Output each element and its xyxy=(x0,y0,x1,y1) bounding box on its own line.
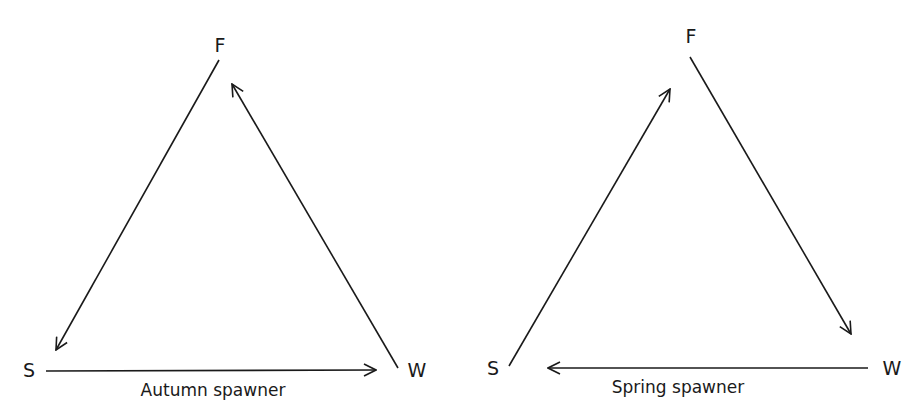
arrow-s-to-f xyxy=(509,89,670,366)
arrow-f-to-w xyxy=(690,57,851,334)
node-f-label: F xyxy=(686,25,697,47)
node-w-label: W xyxy=(883,357,902,379)
arrow-s-to-w xyxy=(46,370,376,371)
caption-spring-spawner: Spring spawner xyxy=(612,377,744,397)
autumn-spawner-diagram: F S W Autumn spawner xyxy=(23,34,427,400)
node-f-label: F xyxy=(215,34,226,56)
migration-cycle-diagrams: F S W Autumn spawner F S W Spring spawne… xyxy=(0,0,921,418)
arrow-w-to-f xyxy=(232,84,398,368)
node-s-label: S xyxy=(23,359,35,381)
caption-autumn-spawner: Autumn spawner xyxy=(141,380,286,400)
spring-spawner-diagram: F S W Spring spawner xyxy=(487,25,902,397)
arrow-f-to-s xyxy=(56,60,219,350)
node-s-label: S xyxy=(487,357,499,379)
node-w-label: W xyxy=(408,359,427,381)
